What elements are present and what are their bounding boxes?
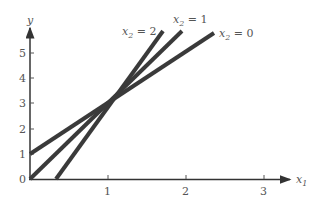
chart: 0 1 2 3 4 5 1 2 3 y x1 x2 = 2 x2 = 1 x2 …: [0, 0, 320, 202]
x-tick-label-3: 3: [260, 185, 267, 198]
y-axis-label: y: [26, 14, 34, 27]
x-axis-label: x1: [296, 173, 307, 188]
annotation-x2-1: x2 = 1: [173, 13, 208, 28]
x-tick-label-1: 1: [104, 185, 111, 198]
line-x2-2: [56, 31, 163, 179]
x-tick-label-2: 2: [182, 185, 189, 198]
y-tick-label-1: 1: [19, 148, 26, 161]
y-tick-label-0: 0: [19, 173, 26, 186]
y-tick-label-2: 2: [19, 123, 26, 136]
x-ticks: [108, 175, 264, 179]
annotation-x2-0: x2 = 0: [219, 27, 254, 42]
line-x2-1: [30, 31, 182, 179]
y-tick-label-3: 3: [19, 97, 26, 110]
y-tick-label-5: 5: [19, 47, 26, 60]
annotation-x2-2: x2 = 2: [122, 25, 157, 40]
y-tick-label-4: 4: [19, 72, 26, 85]
series-lines: [30, 31, 214, 179]
line-x2-0: [30, 33, 214, 154]
